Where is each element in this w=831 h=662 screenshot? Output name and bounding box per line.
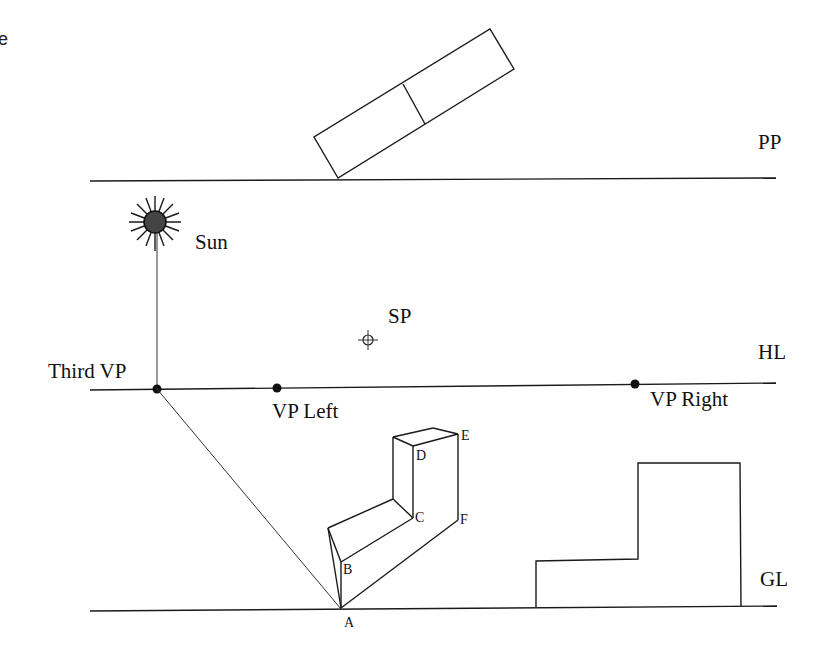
diagram-svg: e PP Sun SP [0,0,831,662]
cropped-text-fragment: e [0,29,8,49]
vp-left-point [273,384,282,393]
vp-right-point [631,380,640,389]
horizon-line-label: HL [758,340,786,364]
sun-icon [129,196,181,251]
vertex-label-c: C [415,510,424,525]
station-point-icon [358,330,378,350]
plan-view-object [314,29,514,178]
ground-line-label: GL [760,567,788,591]
perspective-diagram: e PP Sun SP [0,0,831,662]
third-vp-label: Third VP [48,359,126,383]
perspective-object [328,428,458,608]
elevation-view-object [536,463,741,607]
vertex-label-f: F [460,512,468,527]
vertex-label-e: E [461,428,470,443]
sun-label: Sun [195,230,228,254]
vertex-label-a: A [344,615,355,630]
vp-right-label: VP Right [650,387,728,411]
vertex-label-d: D [416,448,426,463]
picture-plane-label: PP [758,130,781,154]
vp-left-label: VP Left [272,399,338,423]
picture-plane-line [90,178,776,181]
ground-line [90,606,777,611]
vertex-label-b: B [343,562,352,577]
station-point-label: SP [388,304,411,328]
